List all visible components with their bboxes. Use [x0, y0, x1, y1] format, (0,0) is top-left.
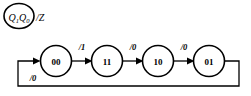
transition-11-to-10: /0 [123, 42, 144, 64]
state-label-11: 11 [103, 57, 112, 67]
transition-00-to-11: /1 [72, 42, 93, 64]
legend-output-text: /Z [35, 12, 45, 23]
feedback-arrow-head [33, 58, 41, 65]
transition-label-01-00: /0 [29, 73, 37, 83]
state-label-00: 00 [52, 57, 62, 67]
state-node-01[interactable]: 01 [194, 46, 225, 77]
state-label-10: 10 [154, 57, 164, 67]
transition-10-to-01: /0 [174, 42, 195, 64]
state-node-11[interactable]: 11 [92, 46, 123, 77]
transition-label-11-10: /0 [129, 42, 137, 52]
transition-label-10-01: /0 [180, 42, 188, 52]
state-node-00[interactable]: 00 [41, 46, 72, 77]
state-label-01: 01 [205, 57, 215, 67]
legend-group: Q1Q0 /Z [4, 4, 45, 29]
state-diagram-canvas: Q1Q0 /Z /0 /1 /0 /0 [0, 0, 251, 96]
transition-label-00-11: /1 [78, 42, 86, 52]
state-diagram: Q1Q0 /Z /0 /1 /0 /0 [0, 0, 251, 96]
state-node-10[interactable]: 10 [143, 46, 174, 77]
